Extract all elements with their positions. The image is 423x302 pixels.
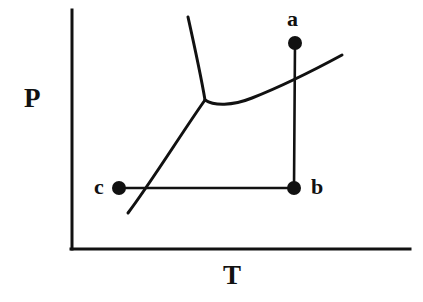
fusion-curve xyxy=(188,17,205,100)
phase-boundaries-group xyxy=(128,17,342,213)
vaporization-curve xyxy=(205,55,342,104)
state-point-label-c: c xyxy=(94,176,104,198)
process-line-a-to-b xyxy=(294,43,295,188)
x-axis-label: T xyxy=(223,262,241,289)
phase-diagram-canvas xyxy=(0,0,423,302)
state-point-label-b: b xyxy=(311,176,323,198)
axes-group xyxy=(71,10,410,249)
state-point-c xyxy=(112,181,126,195)
y-axis-label: P xyxy=(24,85,41,112)
phase-diagram-figure: P T a b c xyxy=(0,0,423,302)
state-points-group xyxy=(112,36,302,195)
process-paths-group xyxy=(119,43,295,188)
state-point-b xyxy=(287,181,301,195)
sublimation-curve xyxy=(128,100,205,213)
state-point-label-a: a xyxy=(287,8,298,30)
state-point-a xyxy=(288,36,302,50)
